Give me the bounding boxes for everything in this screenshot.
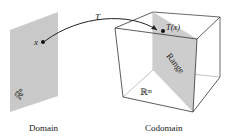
codomain-caption: Codomain [145, 123, 183, 133]
mapping-arrow [45, 19, 157, 41]
linear-transformation-diagram: ℝⁿ x Range ℝᵐ T T(x) Domain Codomain [0, 0, 235, 139]
codomain-point [161, 29, 165, 33]
mapping-label: T [95, 12, 101, 22]
domain-caption: Domain [29, 123, 58, 133]
codomain-point-label: T(x) [166, 22, 180, 32]
codomain-space-label: ℝᵐ [140, 87, 152, 97]
domain-point-label: x [33, 37, 38, 47]
domain-point [41, 40, 45, 44]
